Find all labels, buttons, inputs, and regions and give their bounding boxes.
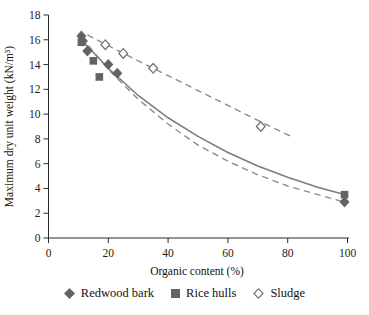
filled-square-icon: [171, 289, 180, 298]
trendlines-layer: [81, 35, 344, 202]
data-point-rice-hulls: [96, 73, 104, 81]
data-point-sludge: [101, 40, 110, 50]
y-tick-label: 6: [35, 158, 41, 170]
data-point-sludge: [149, 63, 158, 73]
y-tick-label: 0: [35, 232, 41, 244]
data-point-redwood-bark: [112, 68, 122, 79]
x-tick-label: 60: [222, 247, 234, 259]
y-tick-label: 4: [35, 182, 41, 194]
y-axis-title: Maximum dry unit weight (kN/m³): [3, 46, 16, 207]
filled-diamond-icon: [64, 288, 75, 299]
data-point-redwood-bark: [103, 59, 113, 70]
figure: 020406080100024681012141618 Organic cont…: [0, 0, 369, 315]
trendline-redwood-bark: [81, 37, 344, 202]
legend: Redwood bark Rice hulls Sludge: [0, 283, 369, 303]
legend-item-sludge: Sludge: [253, 286, 305, 301]
y-tick-label: 12: [29, 83, 41, 95]
data-point-rice-hulls: [78, 38, 86, 46]
legend-item-rice-hulls: Rice hulls: [171, 286, 236, 301]
data-point-sludge: [256, 122, 265, 132]
x-tick-label: 20: [103, 247, 115, 259]
trendline-sludge: [87, 35, 293, 138]
x-tick-label: 80: [282, 247, 294, 259]
legend-item-redwood-bark: Redwood bark: [64, 286, 154, 301]
y-tick-label: 8: [35, 133, 41, 145]
data-point-sludge: [119, 49, 128, 59]
open-diamond-icon: [253, 288, 264, 299]
legend-label-sludge: Sludge: [270, 286, 305, 301]
x-axis-title: Organic content (%): [150, 265, 244, 278]
legend-label-rice-hulls: Rice hulls: [186, 286, 236, 301]
data-point-rice-hulls: [90, 57, 98, 65]
data-point-redwood-bark: [82, 45, 92, 56]
y-tick-label: 10: [29, 108, 41, 120]
y-tick-label: 2: [35, 207, 41, 219]
chart-svg: 020406080100024681012141618 Organic cont…: [0, 0, 369, 315]
trendline-rice-hulls: [81, 40, 344, 195]
y-tick-label: 14: [29, 59, 41, 71]
y-tick-label: 16: [29, 34, 41, 46]
data-points-layer: [76, 31, 349, 208]
x-tick-label: 100: [339, 247, 357, 259]
y-tick-label: 18: [29, 9, 41, 21]
legend-label-redwood-bark: Redwood bark: [81, 286, 154, 301]
data-point-rice-hulls: [341, 191, 349, 199]
x-tick-label: 0: [46, 247, 52, 259]
x-tick-label: 40: [162, 247, 174, 259]
